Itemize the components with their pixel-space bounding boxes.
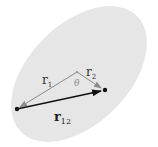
- diagram-canvas: r1 r2 θ r12: [0, 0, 158, 147]
- point-p1: [15, 107, 19, 111]
- point-origin: [76, 71, 78, 73]
- point-p2: [103, 88, 107, 92]
- label-theta: θ: [74, 78, 80, 88]
